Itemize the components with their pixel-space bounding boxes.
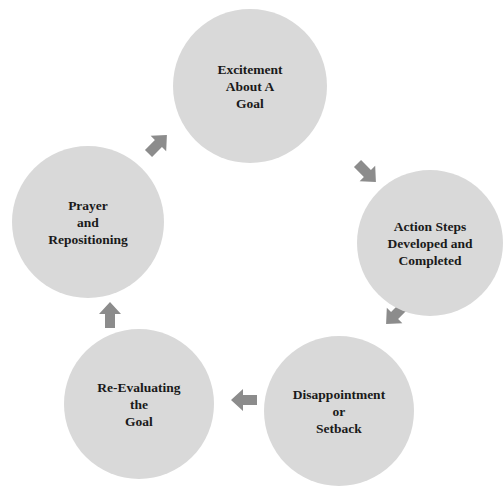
node-prayer: Prayer and Repositioning [12,146,164,298]
node-reevaluating: Re-Evaluating the Goal [64,329,214,479]
label-line: Disappointment [293,386,385,403]
label-line: Goal [97,413,180,430]
label-line: the [97,396,180,413]
label-line: Re-Evaluating [97,379,180,396]
label-line: Completed [387,252,472,269]
label-line: Prayer [48,197,128,214]
node-label: Excitement About A Goal [217,61,282,112]
node-disappointment: Disappointment or Setback [264,336,414,486]
node-label: Action Steps Developed and Completed [387,218,472,269]
label-line: Action Steps [387,218,472,235]
node-excitement: Excitement About A Goal [173,9,327,163]
label-line: Developed and [387,235,472,252]
label-line: Setback [293,420,385,437]
node-label: Re-Evaluating the Goal [97,379,180,430]
label-line: About A [217,78,282,95]
arrow-prayer-to-excitement [141,127,175,161]
arrow-disappointment-to-reevaluating [231,389,257,411]
node-label: Disappointment or Setback [293,386,385,437]
arrow-reevaluating-to-prayer [99,302,121,328]
label-line: Goal [217,95,282,112]
arrow-excitement-to-action [350,156,384,190]
node-label: Prayer and Repositioning [48,197,128,248]
node-action: Action Steps Developed and Completed [357,170,503,316]
label-line: and [48,214,128,231]
label-line: Excitement [217,61,282,78]
label-line: or [293,403,385,420]
label-line: Repositioning [48,231,128,248]
